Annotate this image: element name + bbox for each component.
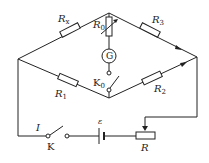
label-r0: R0: [92, 19, 105, 32]
circuit-svg: Rx R0 R3 R1 R2 G K0 I K ε R: [0, 0, 209, 163]
switch-k: [46, 126, 69, 138]
label-k0: K0: [93, 77, 105, 90]
label-galvanometer: G: [106, 51, 113, 61]
circuit-diagram: Rx R0 R3 R1 R2 G K0 I K ε R: [0, 0, 209, 163]
label-current-i: I: [35, 122, 41, 133]
resistor-rx: [60, 23, 81, 37]
label-emf: ε: [98, 117, 102, 126]
label-rheostat: R: [140, 142, 149, 153]
resistor-r1: [58, 73, 79, 86]
outer-wires: [18, 57, 197, 136]
label-r2: R2: [153, 83, 166, 96]
label-k: K: [47, 141, 55, 152]
label-r1: R1: [54, 88, 67, 101]
rheostat-r: [136, 132, 155, 139]
battery-icon: [99, 128, 104, 144]
label-r3: R3: [151, 14, 164, 27]
current-arrow-icons: [175, 45, 187, 67]
label-rx: Rx: [57, 13, 70, 26]
